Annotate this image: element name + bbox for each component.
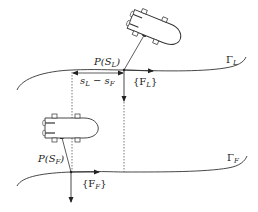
distance-label: sL − sF xyxy=(80,75,116,88)
vessel-icon xyxy=(43,114,99,142)
leader-frame-label: {FL} xyxy=(133,76,157,89)
leader-point-label: P(SL) xyxy=(93,56,120,69)
vessel-icon xyxy=(124,5,186,52)
follower-frame xyxy=(61,134,99,202)
leader-path xyxy=(17,57,246,90)
path-following-diagram: P(SL) sL − sF {FL} ΓL P(SF) {FF} ΓF xyxy=(0,0,258,212)
follower-path-label: ΓF xyxy=(227,152,240,165)
leader-path-label: ΓL xyxy=(226,54,238,67)
follower-frame-label: {FF} xyxy=(82,178,107,191)
follower-point-label: P(SF) xyxy=(37,153,64,166)
leader-frame xyxy=(123,32,153,101)
